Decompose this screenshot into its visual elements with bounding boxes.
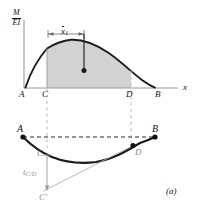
centroid-dimension-symbol: x: [61, 27, 65, 36]
moment-label-b: B: [155, 90, 161, 99]
axis-label-denominator: EI: [12, 19, 21, 28]
elastic-label-d: D: [135, 148, 142, 157]
elastic-label-c-prime: C′: [39, 193, 47, 202]
moment-label-c: C: [42, 90, 48, 99]
x-axis-label: x: [183, 83, 187, 92]
figure-caption: (a): [166, 186, 177, 196]
moment-area-figure: M EI x1 x A C D B A B C D C′ tC/D (a): [0, 0, 203, 217]
centroid-dimension-subscript: 1: [65, 29, 68, 36]
centroid-dimension-arrow-right: [79, 32, 85, 36]
moment-label-a: A: [19, 90, 25, 99]
tangential-deviation-subscript: C/D: [26, 170, 37, 177]
tangential-deviation-label: tC/D: [23, 168, 36, 178]
moment-label-d: D: [126, 90, 133, 99]
elastic-label-a: A: [17, 124, 23, 134]
node-marker-a: [20, 134, 25, 139]
figure-canvas: [0, 0, 203, 217]
tangent-line-d-to-cprime: [44, 146, 134, 192]
axis-label-m-over-ei: M EI: [12, 9, 21, 28]
centroid-dimension-label: x1: [61, 27, 68, 37]
elastic-label-b: B: [152, 124, 158, 134]
elastic-label-c: C: [37, 149, 43, 158]
node-marker-b: [152, 134, 157, 139]
figure-caption-text: (a): [166, 186, 177, 196]
shaded-moment-area: [47, 40, 131, 88]
centroid-dimension-arrow-left: [48, 32, 54, 36]
centroid-marker: [82, 68, 87, 73]
